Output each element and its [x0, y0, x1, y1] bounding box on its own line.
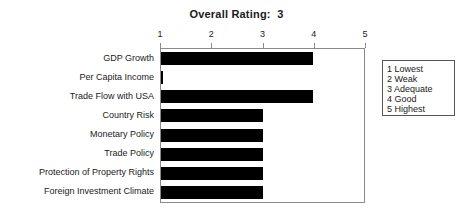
- legend-entry-4: 5 Highest: [387, 104, 454, 114]
- category-label-2: Trade Flow with USA: [0, 91, 154, 101]
- x-tick-label-4: 4: [302, 29, 326, 39]
- category-label-3: Country Risk: [0, 110, 154, 120]
- x-tick-label-2: 2: [199, 29, 223, 39]
- legend-entry-3: 4 Good: [387, 94, 454, 104]
- x-tick-3: [263, 43, 264, 48]
- bar-2: [161, 90, 313, 103]
- bar-5: [161, 148, 263, 161]
- x-tick-5: [365, 43, 366, 48]
- x-tick-label-3: 3: [251, 29, 275, 39]
- x-tick-label-5: 5: [353, 29, 377, 39]
- x-tick-1: [160, 43, 161, 48]
- bar-4: [161, 129, 263, 142]
- overall-rating-bar-chart: Overall Rating: 3 12345 GDP GrowthPer Ca…: [0, 0, 473, 223]
- category-label-0: GDP Growth: [0, 53, 154, 63]
- category-label-6: Protection of Property Rights: [0, 167, 154, 177]
- rating-scale-legend: 1 Lowest2 Weak3 Adequate4 Good5 Highest: [382, 60, 455, 116]
- chart-title: Overall Rating: 3: [0, 8, 473, 20]
- category-label-1: Per Capita Income: [0, 72, 154, 82]
- category-label-7: Foreign Investment Climate: [0, 186, 154, 196]
- x-tick-2: [211, 43, 212, 48]
- legend-entry-2: 3 Adequate: [387, 84, 454, 94]
- bar-1: [161, 71, 163, 84]
- bar-7: [161, 186, 263, 199]
- x-tick-4: [314, 43, 315, 48]
- category-label-4: Monetary Policy: [0, 129, 154, 139]
- bars-layer: [161, 49, 364, 202]
- bar-0: [161, 52, 313, 65]
- category-axis-labels: GDP GrowthPer Capita IncomeTrade Flow wi…: [0, 48, 157, 203]
- bar-6: [161, 167, 263, 180]
- legend-entry-1: 2 Weak: [387, 74, 454, 84]
- bar-3: [161, 109, 263, 122]
- category-label-5: Trade Policy: [0, 148, 154, 158]
- x-tick-label-1: 1: [148, 29, 172, 39]
- legend-entry-0: 1 Lowest: [387, 64, 454, 74]
